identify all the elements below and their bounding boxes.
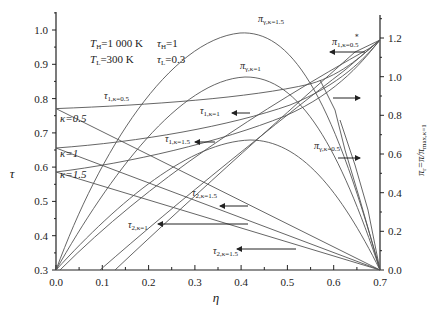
curve-pi1-star-right-a (320, 80, 380, 270)
curve-pi1-star-c (60, 40, 380, 270)
chart: 0.0 0.1 0.2 0.3 0.4 0.5 0.6 0.7 0.3 0.4 … (0, 0, 432, 310)
y-tick-label: 0.7 (34, 127, 48, 139)
x-tick-label: 0.2 (142, 276, 156, 288)
x-tick-label: 0.3 (188, 276, 202, 288)
y2-axis-title: πr=π/πmax,κ=1 (415, 124, 428, 176)
label-pi-gamma-k0.5: πγ,κ=0.5 (314, 140, 341, 153)
y2-tick-labels: 0.0 0.2 0.4 0.6 0.8 1.0 1.2 (388, 32, 402, 276)
label-tau1-k1: τ1,κ=1 (200, 105, 220, 118)
y-tick-label: 0.9 (34, 58, 48, 70)
x-tick-labels: 0.0 0.1 0.2 0.3 0.4 0.5 0.6 0.7 (49, 276, 387, 288)
x-tick-label: 0.0 (49, 276, 63, 288)
x-tick-label: 0.6 (327, 276, 341, 288)
label-kappa-1: κ=1 (60, 147, 78, 159)
y2-tick-label: 0.4 (388, 187, 402, 199)
param-tau-h: τH=1 (157, 37, 178, 51)
y2-tick-label: 0.8 (388, 109, 402, 121)
y-tick-label: 0.5 (34, 195, 48, 207)
label-tau2-k1.5-lower: τ2,κ=1.5 (213, 245, 239, 258)
label-pi-gamma-k1.5: πγ,κ=1.5 (258, 13, 285, 26)
y-tick-label: 0.4 (34, 230, 48, 242)
label-kappa-0.5: κ=0.5 (60, 112, 87, 124)
label-tau2-k1: τ2,κ=1 (128, 219, 148, 232)
y2-tick-label: 0.0 (388, 264, 402, 276)
label-tau1-k0.5: τ1,κ=0.5 (104, 90, 130, 103)
y2-tick-label: 0.2 (388, 225, 402, 237)
y-tick-labels: 0.3 0.4 0.5 0.6 0.7 0.8 0.9 1.0 (34, 24, 48, 276)
svg-text:πr=π/πmax,κ=1: πr=π/πmax,κ=1 (415, 124, 428, 176)
param-th: TH=1 000 K (90, 37, 143, 51)
label-tau1-k1.5: τ1,κ=1.5 (165, 133, 191, 146)
y-tick-label: 0.6 (34, 161, 48, 173)
x-tick-label: 0.7 (373, 276, 387, 288)
y2-tick-label: 1.0 (388, 71, 402, 83)
x-tick-label: 0.5 (281, 276, 295, 288)
param-tau-l: τL=0.3 (157, 53, 186, 67)
y-axis-title: τ (10, 166, 16, 181)
y-tick-label: 0.3 (34, 264, 48, 276)
x-tick-label: 0.4 (234, 276, 248, 288)
label-pi-gamma-k1: πγ,κ=1 (240, 60, 261, 73)
y-tick-label: 1.0 (34, 24, 48, 36)
label-kappa-1.5: κ=1.5 (60, 168, 87, 180)
y-tick-label: 0.8 (34, 93, 48, 105)
x-axis-title: η (213, 290, 219, 305)
y2-tick-label: 0.6 (388, 148, 402, 160)
curve-pi-gamma-k1 (56, 77, 380, 270)
parameters-box: TH=1 000 K TL=300 K τH=1 τL=0.3 (90, 37, 186, 67)
star-mark: * (355, 33, 359, 41)
param-tl: TL=300 K (90, 53, 134, 67)
y2-tick-label: 1.2 (388, 32, 402, 44)
x-tick-label: 0.1 (95, 276, 109, 288)
